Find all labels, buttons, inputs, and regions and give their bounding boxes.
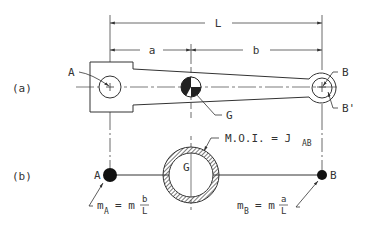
mass-A-equals: = m xyxy=(115,199,135,212)
mass-B-subscript: B xyxy=(244,207,249,216)
point-label-B-prime: B' xyxy=(342,102,355,115)
panel-label-b: (b) xyxy=(12,170,32,183)
mass-B-symbol: m xyxy=(237,199,244,212)
moi-annotation: M.O.I. = J AB xyxy=(204,132,312,151)
mass-B-numerator: a xyxy=(281,194,286,204)
equivalent-mass-diagram: L a b (a) A B B' xyxy=(0,0,370,231)
dimension-label-a: a xyxy=(149,44,156,57)
dimension-a: a xyxy=(110,44,191,57)
moment-of-inertia-ring: G xyxy=(163,147,219,203)
moi-subscript: AB xyxy=(302,139,312,148)
mass-A-symbol: m xyxy=(97,199,104,212)
dimension-label-b: b xyxy=(253,44,260,57)
ring-label-G: G xyxy=(183,161,190,174)
mass-A-denominator: L xyxy=(142,206,147,216)
mass-A-numerator: b xyxy=(142,194,147,204)
center-of-gravity-icon: G xyxy=(181,77,233,122)
dimension-label-L: L xyxy=(215,17,222,30)
pivot-A: A xyxy=(68,66,121,98)
mass-B: B m B = m a L xyxy=(237,169,337,216)
dimension-L: L xyxy=(110,17,322,30)
point-label-G: G xyxy=(226,109,233,122)
point-label-A: A xyxy=(68,66,75,79)
mass-B-denominator: L xyxy=(281,206,286,216)
moi-label: M.O.I. = J xyxy=(225,132,291,145)
mass-A-subscript: A xyxy=(104,207,109,216)
point-label-B: B xyxy=(342,66,349,79)
mass-label-A: A xyxy=(94,169,101,182)
mass-B-equals: = m xyxy=(255,199,275,212)
dimension-b: b xyxy=(191,44,322,57)
panel-label-a: (a) xyxy=(12,82,32,95)
mass-label-B: B xyxy=(330,169,337,182)
